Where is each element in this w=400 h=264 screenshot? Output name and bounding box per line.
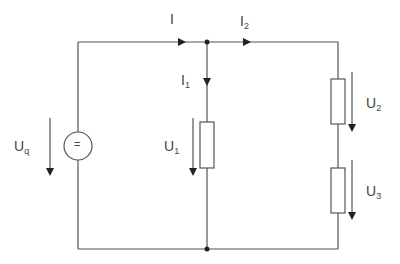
arrowhead-u1 xyxy=(189,168,197,176)
source-symbol: = xyxy=(74,139,80,150)
resistor-r2 xyxy=(331,79,345,124)
label-u2: U2 xyxy=(366,96,381,113)
resistor-r1 xyxy=(200,122,214,168)
arrow-i2-icon xyxy=(243,38,251,46)
arrow-i1-icon xyxy=(203,78,211,86)
junction-bottom xyxy=(205,247,210,252)
label-u3: U3 xyxy=(366,184,381,201)
label-uq: Uq xyxy=(14,139,29,156)
wire-top xyxy=(78,42,338,79)
wire-right-bottom xyxy=(78,213,338,249)
arrowhead-u3 xyxy=(348,212,356,220)
junction-top xyxy=(205,40,210,45)
resistor-r3 xyxy=(331,168,345,213)
arrowhead-u2 xyxy=(348,124,356,132)
label-i: I xyxy=(170,12,174,26)
arrowhead-uq xyxy=(46,168,54,176)
label-i1: I1 xyxy=(181,73,190,90)
label-u1: U1 xyxy=(164,139,179,156)
circuit-diagram xyxy=(0,0,400,264)
arrow-i-icon xyxy=(178,38,186,46)
label-i2: I2 xyxy=(240,14,249,31)
